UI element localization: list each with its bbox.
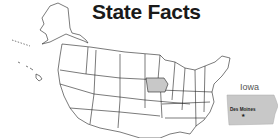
alaska-shape <box>40 3 88 44</box>
inset-state-label: Iowa <box>240 82 259 92</box>
hawaii-shape <box>18 62 42 81</box>
iowa-highlight <box>146 78 168 92</box>
capital-star-icon: ★ <box>241 112 245 118</box>
